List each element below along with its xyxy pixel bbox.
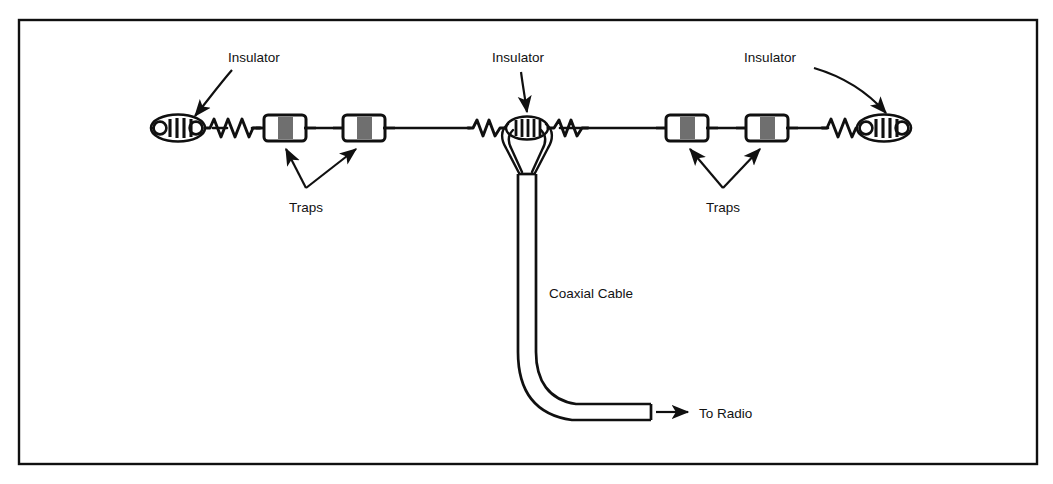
antenna-diagram: Insulator Insulator Insulator Traps Trap… (0, 0, 1053, 484)
trap-3 (656, 115, 718, 141)
right-end-insulator (857, 115, 911, 142)
label-coaxial-cable: Coaxial Cable (549, 286, 633, 301)
diagram-page: Insulator Insulator Insulator Traps Trap… (0, 0, 1053, 484)
label-insulator-center: Insulator (492, 50, 544, 65)
label-traps-left: Traps (289, 200, 323, 215)
label-insulator-right: Insulator (744, 50, 796, 65)
label-to-radio: To Radio (699, 406, 752, 421)
trap-4 (736, 115, 798, 141)
label-traps-right: Traps (706, 200, 740, 215)
left-end-insulator (150, 115, 205, 142)
diagram-border (19, 20, 1037, 464)
trap-1 (256, 115, 316, 141)
center-insulator (506, 117, 548, 140)
trap-2 (333, 115, 395, 141)
label-insulator-left: Insulator (228, 50, 280, 65)
